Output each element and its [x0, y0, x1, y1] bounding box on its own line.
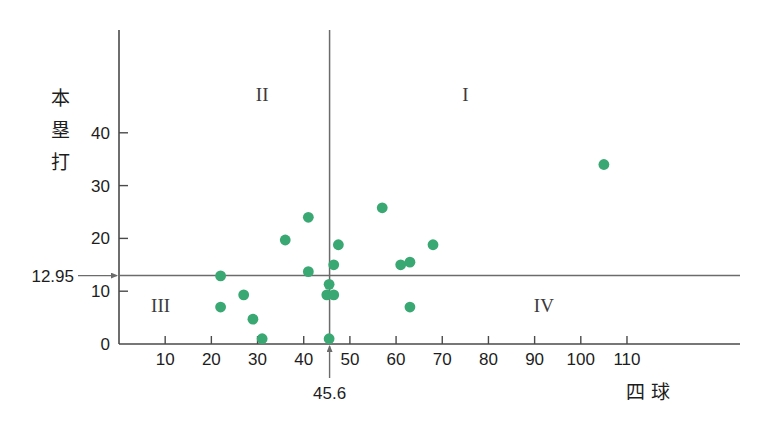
- y-tick-label: 10: [91, 282, 110, 301]
- axes-group: [119, 30, 740, 344]
- x-tick-label: 90: [525, 350, 544, 369]
- data-point: [257, 333, 268, 344]
- data-point: [303, 266, 314, 277]
- data-point: [377, 202, 388, 213]
- data-point: [215, 270, 226, 281]
- y-tick-label: 30: [91, 177, 110, 196]
- quadrant-label-ii: II: [256, 84, 269, 105]
- quadrant-label-iv: IV: [534, 295, 554, 316]
- x-tick-label: 50: [340, 350, 359, 369]
- data-point: [405, 302, 416, 313]
- x-tick-label: 30: [248, 350, 267, 369]
- x-tick-label: 70: [433, 350, 452, 369]
- scatter-plot-canvas: 12.9545.6 102030405060708090100110010203…: [0, 0, 758, 426]
- data-point: [324, 333, 335, 344]
- data-point: [238, 289, 249, 300]
- y-axis-title-char: 塁: [51, 120, 70, 141]
- axis-ticks-group: 102030405060708090100110010203040: [91, 124, 640, 369]
- data-point: [395, 259, 406, 270]
- data-point: [303, 212, 314, 223]
- x-tick-label: 40: [294, 350, 313, 369]
- data-point: [280, 235, 291, 246]
- data-point: [428, 239, 439, 250]
- data-point: [333, 239, 344, 250]
- data-point: [328, 259, 339, 270]
- reference-lines-group: 12.9545.6: [31, 30, 740, 403]
- scatter-plot-figure: 12.9545.6 102030405060708090100110010203…: [0, 0, 758, 426]
- data-point: [405, 257, 416, 268]
- quadrant-label-i: I: [462, 84, 468, 105]
- data-point: [324, 279, 335, 290]
- y-tick-label: 40: [91, 124, 110, 143]
- x-tick-label: 10: [156, 350, 175, 369]
- x-tick-label: 100: [567, 350, 595, 369]
- x-tick-label: 60: [387, 350, 406, 369]
- x-tick-label: 110: [613, 350, 640, 369]
- x-tick-label: 80: [479, 350, 498, 369]
- data-point: [215, 302, 226, 313]
- quadrant-label-iii: III: [151, 295, 170, 316]
- data-point: [598, 159, 609, 170]
- vertical-reference-label: 45.6: [313, 384, 346, 403]
- y-axis-title-char: 本: [51, 88, 70, 109]
- data-point: [328, 289, 339, 300]
- y-tick-label: 0: [101, 335, 110, 354]
- data-points-group: [215, 159, 609, 344]
- y-tick-label: 20: [91, 229, 110, 248]
- data-point: [248, 314, 259, 325]
- x-tick-label: 20: [202, 350, 221, 369]
- x-axis-title: 四 球: [626, 382, 669, 403]
- quadrant-labels-group: IIIIIIIV: [151, 84, 554, 316]
- horizontal-reference-label: 12.95: [31, 267, 74, 286]
- y-axis-title-char: 打: [51, 152, 70, 173]
